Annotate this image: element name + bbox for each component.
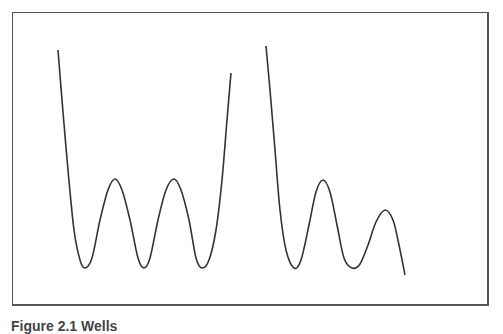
right-well-curve (266, 46, 405, 275)
left-well-curve (58, 50, 231, 268)
figure-caption: Figure 2.1 Wells (11, 318, 117, 334)
